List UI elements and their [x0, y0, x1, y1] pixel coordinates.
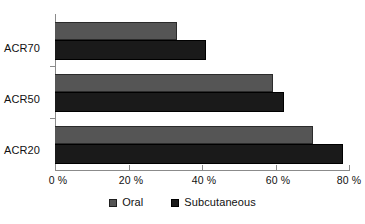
x-axis-tick-label-60: 60 %: [266, 175, 290, 186]
subcutaneous-swatch-icon: [171, 199, 179, 207]
bar-subcutaneous-acr50: [55, 92, 284, 112]
bar-subcutaneous-acr70: [55, 40, 206, 60]
x-axis-tick-label-40: 40 %: [192, 175, 216, 186]
bar-oral-acr70: [55, 22, 177, 40]
bar-subcutaneous-acr20: [55, 144, 343, 164]
x-axis-tick-label-20: 20 %: [119, 175, 143, 186]
horizontal-bar-chart: ACR70 ACR50 ACR20 0 % 20 % 40 % 60 % 80 …: [0, 0, 365, 224]
legend-item-oral: Oral: [109, 197, 143, 208]
category-label-acr70: ACR70: [4, 43, 50, 54]
plot-area: [55, 14, 350, 171]
x-axis-tick-label-0: 0 %: [49, 175, 67, 186]
bar-oral-acr50: [55, 74, 273, 92]
x-axis-tick-label-80: 80 %: [337, 175, 361, 186]
legend-item-subcutaneous: Subcutaneous: [171, 197, 256, 208]
x-axis-tick: [202, 165, 203, 170]
x-axis-tick: [55, 165, 56, 170]
chart-legend: Oral Subcutaneous: [0, 197, 365, 208]
oral-swatch-icon: [109, 199, 117, 207]
category-label-acr50: ACR50: [4, 94, 50, 105]
y-axis-tick: [50, 118, 55, 119]
legend-label-subcutaneous: Subcutaneous: [184, 197, 256, 208]
category-label-acr20: ACR20: [4, 145, 50, 156]
x-axis-tick: [276, 165, 277, 170]
x-axis-tick: [129, 165, 130, 170]
legend-label-oral: Oral: [122, 197, 143, 208]
bar-oral-acr20: [55, 126, 313, 144]
x-axis-tick: [349, 165, 350, 170]
y-axis-tick: [50, 66, 55, 67]
